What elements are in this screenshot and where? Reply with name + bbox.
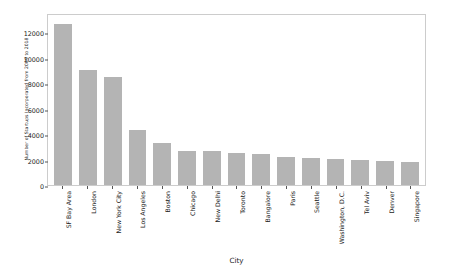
bar-slot [175, 15, 200, 185]
x-tick-label: New Delhi [214, 191, 221, 222]
bar [153, 143, 171, 185]
x-axis-ticks: SF Bay AreaLondonNew York CityLos Angele… [47, 186, 426, 248]
bar [302, 158, 320, 185]
x-tick-slot: New York City [100, 186, 125, 248]
x-tick-slot: New Delhi [199, 186, 224, 248]
bar [104, 77, 122, 185]
y-tick-label: 10000 [24, 56, 48, 64]
bar-chart-figure: Number of Startups Incorporated from 200… [0, 0, 459, 280]
x-tick-slot: Seattle [299, 186, 324, 248]
x-tick-mark [62, 186, 63, 189]
y-tick-label: 12000 [24, 30, 48, 38]
x-tick-label: London [90, 191, 97, 214]
y-tick-label: 6000 [28, 107, 48, 115]
x-tick-label: Tel Aviv [363, 191, 370, 214]
bar-slot [323, 15, 348, 185]
x-tick-mark [286, 186, 287, 189]
x-tick-slot: Boston [149, 186, 174, 248]
x-tick-mark [236, 186, 237, 189]
bar [54, 24, 72, 185]
bar-slot [125, 15, 150, 185]
x-tick-slot: Washington, D.C. [323, 186, 348, 248]
bar-slot [76, 15, 101, 185]
x-tick-slot: Tel Aviv [348, 186, 373, 248]
x-axis-title: City [47, 256, 426, 265]
x-tick-mark [162, 186, 163, 189]
bar-series [48, 15, 425, 185]
x-tick-slot: Toronto [224, 186, 249, 248]
bar-slot [274, 15, 299, 185]
x-tick-mark [410, 186, 411, 189]
x-tick-mark [361, 186, 362, 189]
x-tick-slot: Bangalore [249, 186, 274, 248]
bar-slot [348, 15, 373, 185]
bar-slot [199, 15, 224, 185]
x-tick-label: New York City [115, 191, 122, 233]
x-tick-mark [336, 186, 337, 189]
bar-slot [373, 15, 398, 185]
bar [178, 151, 196, 185]
x-tick-mark [386, 186, 387, 189]
bar [252, 154, 270, 185]
x-tick-slot: Chicago [174, 186, 199, 248]
x-tick-mark [187, 186, 188, 189]
x-tick-slot: Paris [274, 186, 299, 248]
x-tick-mark [261, 186, 262, 189]
x-tick-mark [212, 186, 213, 189]
bar-slot [150, 15, 175, 185]
bar [401, 162, 419, 185]
y-tick-label: 2000 [28, 158, 48, 166]
x-tick-label: Denver [388, 191, 395, 214]
bar-slot [397, 15, 422, 185]
x-tick-slot: London [75, 186, 100, 248]
x-tick-label: Chicago [189, 191, 196, 216]
x-tick-label: Seattle [313, 191, 320, 213]
bar [129, 130, 147, 185]
bar-slot [249, 15, 274, 185]
bar [79, 70, 97, 185]
bar [351, 160, 369, 185]
x-tick-slot: Denver [373, 186, 398, 248]
bar-slot [224, 15, 249, 185]
bar-slot [51, 15, 76, 185]
y-tick-label: 8000 [28, 81, 48, 89]
x-tick-label: Paris [289, 191, 296, 206]
x-tick-label: Bangalore [264, 191, 271, 222]
x-tick-slot: Los Angeles [125, 186, 150, 248]
bar [228, 153, 246, 185]
bar-slot [298, 15, 323, 185]
plot-area: 020004000600080001000012000 [47, 14, 426, 186]
x-tick-slot: Singapore [398, 186, 423, 248]
x-tick-mark [112, 186, 113, 189]
x-tick-label: Washington, D.C. [338, 191, 345, 244]
x-tick-label: Toronto [239, 191, 246, 214]
x-tick-mark [137, 186, 138, 189]
x-tick-label: Los Angeles [139, 191, 146, 228]
bar [203, 151, 221, 185]
x-tick-label: Singapore [413, 191, 420, 222]
x-tick-label: SF Bay Area [65, 191, 72, 228]
bar [327, 159, 345, 185]
x-tick-label: Boston [164, 191, 171, 212]
x-tick-mark [87, 186, 88, 189]
y-tick-label: 4000 [28, 132, 48, 140]
x-tick-slot: SF Bay Area [50, 186, 75, 248]
bar [277, 157, 295, 185]
x-tick-mark [311, 186, 312, 189]
bar [376, 161, 394, 185]
bar-slot [100, 15, 125, 185]
